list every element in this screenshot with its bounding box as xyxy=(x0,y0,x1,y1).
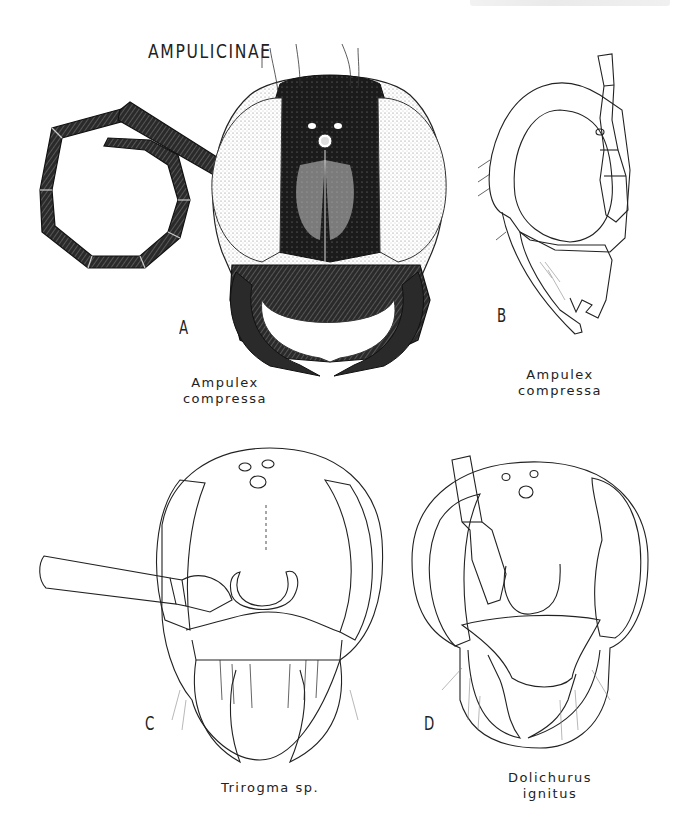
figure-label-b: B xyxy=(497,304,506,326)
caption-a-species: compressa xyxy=(165,391,285,407)
caption-d-genus: Dolichurus xyxy=(490,770,610,786)
figure-label-c: C xyxy=(145,712,154,734)
figure-label-d: D xyxy=(424,712,434,734)
figure-plate: AMPULICINAE xyxy=(0,0,680,831)
caption-d-species: ignitus xyxy=(490,786,610,802)
caption-b-species: compressa xyxy=(500,383,620,399)
caption-a: Ampulex compressa xyxy=(165,375,285,407)
figure-d-illustration xyxy=(0,0,680,831)
caption-c-genus: Trirogma sp. xyxy=(200,780,340,796)
figure-label-a: A xyxy=(179,316,188,338)
caption-d: Dolichurus ignitus xyxy=(490,770,610,802)
caption-b: Ampulex compressa xyxy=(500,367,620,399)
caption-a-genus: Ampulex xyxy=(165,375,285,391)
caption-b-genus: Ampulex xyxy=(500,367,620,383)
caption-c: Trirogma sp. xyxy=(200,780,340,796)
